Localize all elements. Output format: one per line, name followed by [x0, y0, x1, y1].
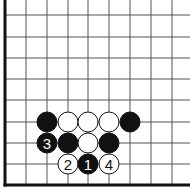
black-stone-circle [120, 112, 140, 132]
black-stone [58, 133, 78, 153]
white-stone: 4 [99, 154, 119, 174]
move-number-label: 3 [43, 135, 51, 152]
black-stone-circle [99, 133, 119, 153]
move-number-label: 2 [64, 156, 72, 173]
black-stone [37, 112, 57, 132]
white-stone-circle [78, 112, 98, 132]
black-stone-circle [58, 133, 78, 153]
white-stone-circle [58, 112, 78, 132]
white-stone [78, 133, 98, 153]
black-stone [99, 133, 119, 153]
black-stone: 3 [37, 133, 57, 153]
black-stone [120, 112, 140, 132]
move-number-label: 4 [105, 156, 113, 173]
white-stone [58, 112, 78, 132]
white-stone [99, 112, 119, 132]
white-stone-circle [78, 133, 98, 153]
move-number-label: 1 [84, 156, 92, 173]
go-board: 3214 [0, 0, 190, 191]
black-stone-circle [37, 112, 57, 132]
white-stone-circle [99, 112, 119, 132]
white-stone [78, 112, 98, 132]
white-stone: 2 [58, 154, 78, 174]
black-stone: 1 [78, 154, 98, 174]
